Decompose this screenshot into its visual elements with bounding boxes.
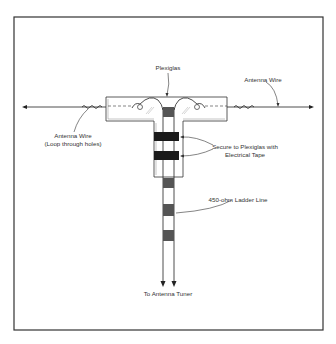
arrow-down-icon — [161, 281, 166, 287]
label-tape-2: Electrical Tape — [225, 151, 266, 158]
ladder-spacer — [163, 178, 174, 188]
label-antenna-wire-right: Antenna Wire — [244, 76, 282, 83]
label-ladder-line: 450-ohm Ladder Line — [209, 196, 268, 203]
label-antenna-wire-left-note: (Loop through holes) — [44, 140, 101, 147]
label-tape: Secure to Plexiglas with — [212, 143, 278, 150]
antenna-diagram: Plexiglas Antenna Wire Antenna Wire (Loo… — [0, 0, 336, 344]
tape-band-lower — [154, 151, 179, 160]
arrow-left-icon — [22, 105, 27, 109]
hole-left — [138, 105, 143, 110]
ladder-spacer — [163, 107, 174, 117]
tape-band-upper — [154, 132, 179, 141]
label-to-tuner: To Antenna Tuner — [144, 290, 193, 297]
label-antenna-wire-left: Antenna Wire — [54, 132, 92, 139]
arrow-down-icon — [172, 281, 177, 287]
hole-right — [195, 105, 200, 110]
arrow-right-icon — [309, 105, 314, 109]
ladder-spacer — [163, 204, 174, 216]
ladder-spacer — [163, 230, 174, 241]
label-plexiglas: Plexiglas — [156, 64, 181, 71]
